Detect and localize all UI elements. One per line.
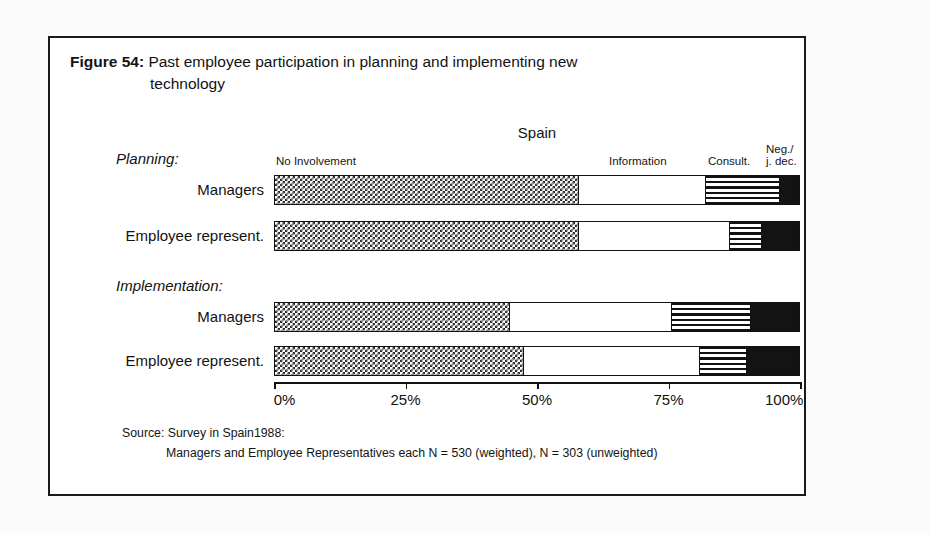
category-label-no-involvement: No Involvement (276, 155, 356, 167)
bar-segment-no-involvement[interactable] (275, 347, 523, 375)
page-background: Figure 54: Past employee participation i… (0, 0, 930, 535)
section-label-implementation: Implementation: (116, 277, 223, 294)
category-label-neg-j-dec-line-2: j. dec. (766, 155, 797, 167)
bar-segment-neg-j-dec[interactable] (746, 347, 799, 375)
bar-row-label-planning-managers: Managers (50, 175, 264, 205)
x-axis: 0% 25% 50% 75% 100% (274, 382, 800, 416)
category-label-consult: Consult. (708, 155, 750, 167)
bar-planning-employee[interactable] (274, 221, 800, 251)
bar-segment-information[interactable] (578, 222, 729, 250)
bar-segment-neg-j-dec[interactable] (761, 222, 799, 250)
figure-caption-line-1: Past employee participation in planning … (148, 53, 577, 70)
bar-implementation-employee[interactable] (274, 346, 800, 376)
x-axis-tick-mark (669, 382, 671, 389)
x-axis-tick-label: 50% (522, 391, 552, 408)
bar-segment-information[interactable] (509, 303, 670, 331)
chart-subtitle-country: Spain (274, 124, 800, 141)
x-axis-tick-label: 25% (390, 391, 420, 408)
table-row: Employee represent. (50, 221, 804, 251)
source-note-line-1: Source: Survey in Spain1988: (122, 426, 285, 440)
category-label-information: Information (609, 155, 667, 167)
table-row: Managers (50, 302, 804, 332)
bar-row-label-planning-employee: Employee represent. (50, 221, 264, 251)
bar-segment-consult[interactable] (699, 347, 746, 375)
x-axis-tick-mark (274, 382, 276, 389)
bar-segment-no-involvement[interactable] (275, 222, 578, 250)
bar-segment-information[interactable] (578, 176, 705, 204)
x-axis-tick-mark (406, 382, 408, 389)
x-axis-tick-mark (537, 382, 539, 389)
bar-segment-consult[interactable] (729, 222, 761, 250)
figure-caption-line-2: technology (150, 73, 770, 95)
bar-row-label-implementation-managers: Managers (50, 302, 264, 332)
figure-frame: Figure 54: Past employee participation i… (48, 36, 806, 496)
bar-segment-neg-j-dec[interactable] (779, 176, 799, 204)
source-note: Source: Survey in Spain1988: Managers an… (122, 423, 657, 464)
bar-segment-neg-j-dec[interactable] (750, 303, 799, 331)
bar-implementation-managers[interactable] (274, 302, 800, 332)
bar-segment-consult[interactable] (671, 303, 751, 331)
figure-caption: Figure 54: Past employee participation i… (70, 51, 770, 96)
x-axis-tick-label: 0% (274, 391, 296, 408)
bar-segment-consult[interactable] (705, 176, 779, 204)
table-row: Employee represent. (50, 346, 804, 376)
bar-segment-no-involvement[interactable] (275, 303, 509, 331)
category-label-neg-j-dec: Neg./ j. dec. (766, 143, 797, 168)
category-label-neg-j-dec-line-1: Neg./ (766, 143, 794, 155)
bar-segment-no-involvement[interactable] (275, 176, 578, 204)
bar-planning-managers[interactable] (274, 175, 800, 205)
x-axis-tick-label: 75% (653, 391, 683, 408)
figure-number: Figure 54: (70, 53, 144, 70)
bar-segment-information[interactable] (523, 347, 700, 375)
table-row: Managers (50, 175, 804, 205)
x-axis-tick-mark (800, 382, 802, 389)
source-note-line-2: Managers and Employee Representatives ea… (166, 443, 657, 463)
section-label-planning: Planning: (116, 150, 179, 167)
x-axis-tick-label: 100% (765, 391, 803, 408)
bar-row-label-implementation-employee: Employee represent. (50, 346, 264, 376)
